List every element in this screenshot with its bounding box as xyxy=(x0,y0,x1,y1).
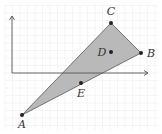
point-label-b: B xyxy=(146,47,155,60)
point-d xyxy=(109,50,113,54)
point-label-e: E xyxy=(76,87,85,100)
point-a xyxy=(20,113,24,117)
point-label-a: A xyxy=(17,118,26,131)
triangle-abc xyxy=(22,23,141,115)
point-label-d: D xyxy=(97,46,107,59)
point-b xyxy=(139,51,143,55)
geometry-diagram: ABCDE xyxy=(0,0,162,134)
point-e xyxy=(79,81,83,85)
point-label-c: C xyxy=(107,5,116,18)
point-c xyxy=(109,21,113,25)
